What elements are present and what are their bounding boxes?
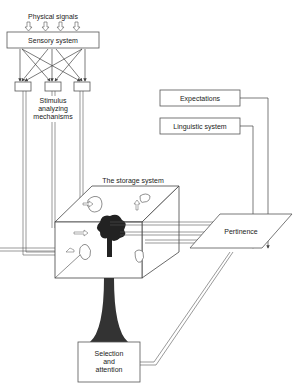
selection-label-3: attention — [96, 366, 123, 373]
stimulus-label-2: analyzing — [38, 105, 68, 113]
analyzer-box-3 — [74, 82, 90, 91]
linguistic-system-label: Linguistic system — [173, 123, 226, 131]
expectations-label: Expectations — [180, 95, 221, 103]
storage-system-label: The storage system — [102, 177, 164, 185]
selection-label-1: Selection — [95, 350, 124, 357]
physical-signals-label: Physical signals — [28, 13, 78, 21]
stimulus-label-1: Stimulus — [40, 97, 67, 104]
attention-model-diagram: Physical signals Sensory system Stimulus… — [0, 0, 303, 390]
analyzer-box-1 — [15, 82, 31, 91]
pertinence-label: Pertinence — [224, 228, 258, 235]
analyzer-box-2 — [45, 82, 61, 91]
selection-label-2: and — [103, 358, 115, 365]
stimulus-label-3: mechanisms — [33, 113, 73, 120]
physical-signal-arrows — [25, 22, 80, 31]
sensory-system-label: Sensory system — [28, 37, 78, 45]
sensory-crossing-arrows — [20, 49, 85, 81]
